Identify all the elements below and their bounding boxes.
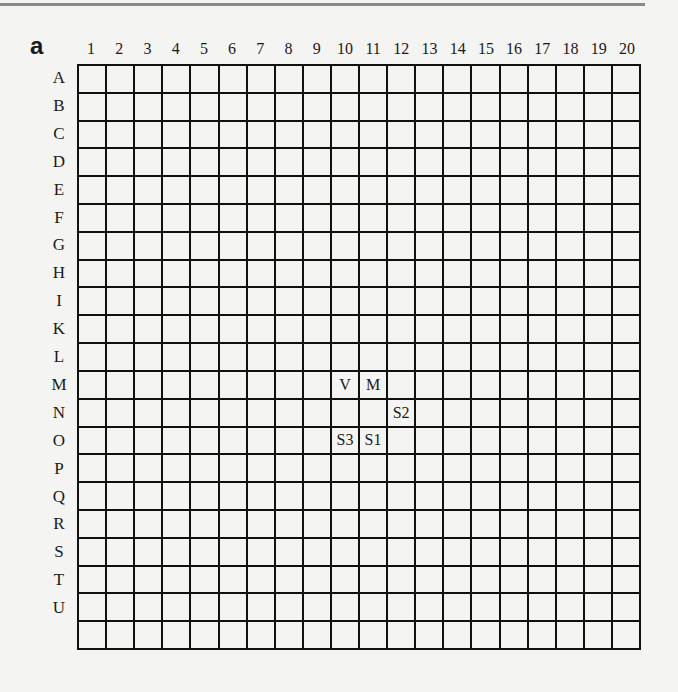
grid-cell	[107, 261, 135, 289]
grid-cell	[416, 122, 444, 150]
grid-cell	[276, 483, 304, 511]
grid-cell	[248, 483, 276, 511]
grid-cell	[388, 567, 416, 595]
grid-cell	[107, 539, 135, 567]
grid-cell	[304, 205, 332, 233]
grid-cell-marked: S3	[332, 428, 360, 456]
grid-cell	[444, 205, 472, 233]
grid-cell	[613, 316, 641, 344]
grid-cell	[135, 122, 163, 150]
grid-cell	[248, 455, 276, 483]
grid-cell	[501, 149, 529, 177]
grid-cell	[388, 428, 416, 456]
grid-cell	[304, 344, 332, 372]
column-label: 11	[359, 38, 387, 60]
grid-cell	[360, 233, 388, 261]
grid-cell	[613, 483, 641, 511]
grid-cell	[163, 594, 191, 622]
grid-cell	[529, 177, 557, 205]
column-label: 13	[415, 38, 443, 60]
grid-cell	[472, 94, 500, 122]
grid-cell	[79, 567, 107, 595]
grid-cell	[163, 288, 191, 316]
grid-cell	[501, 483, 529, 511]
grid-cell	[529, 316, 557, 344]
grid-cell	[585, 428, 613, 456]
grid-cell	[191, 483, 219, 511]
grid-cell	[191, 177, 219, 205]
grid-cell	[276, 539, 304, 567]
grid-cell	[163, 622, 191, 650]
grid-cell	[276, 567, 304, 595]
grid-cell	[248, 511, 276, 539]
row-label: Q	[44, 483, 74, 511]
grid-cell	[107, 372, 135, 400]
grid-cell	[529, 94, 557, 122]
grid-cell	[79, 622, 107, 650]
grid-cell	[360, 288, 388, 316]
grid-cell	[501, 539, 529, 567]
grid-cell	[613, 511, 641, 539]
grid-cell	[276, 288, 304, 316]
grid-cell	[444, 94, 472, 122]
row-label: L	[44, 343, 74, 371]
grid-cell	[107, 316, 135, 344]
grid-cell	[529, 511, 557, 539]
grid-cell	[248, 622, 276, 650]
grid-cell	[472, 149, 500, 177]
grid-cell	[613, 567, 641, 595]
grid-cell	[472, 344, 500, 372]
grid-cell	[79, 66, 107, 94]
grid-cell	[135, 372, 163, 400]
grid-cell	[191, 539, 219, 567]
grid-cell	[220, 261, 248, 289]
top-rule	[0, 3, 645, 6]
grid-cell	[135, 622, 163, 650]
grid-cell	[135, 400, 163, 428]
grid-cell	[107, 288, 135, 316]
grid-cell	[501, 261, 529, 289]
grid-cell	[557, 400, 585, 428]
grid-cell	[220, 483, 248, 511]
grid-cell	[585, 66, 613, 94]
grid-cell	[613, 233, 641, 261]
grid-cell	[304, 122, 332, 150]
grid-cell	[135, 94, 163, 122]
grid-cell	[79, 149, 107, 177]
grid-cell	[585, 205, 613, 233]
grid-cell	[444, 149, 472, 177]
grid-cell	[613, 622, 641, 650]
grid-cell	[472, 622, 500, 650]
column-label: 12	[387, 38, 415, 60]
grid-cell	[557, 316, 585, 344]
grid-cell	[163, 233, 191, 261]
grid-cell	[501, 233, 529, 261]
grid-cell	[163, 483, 191, 511]
row-label: S	[44, 538, 74, 566]
grid-cell	[472, 261, 500, 289]
grid-cell	[135, 511, 163, 539]
grid-cell	[416, 94, 444, 122]
grid-cell	[79, 400, 107, 428]
grid-cell	[416, 149, 444, 177]
grid-cell	[220, 428, 248, 456]
grid-cell	[557, 483, 585, 511]
grid-cell	[163, 567, 191, 595]
grid-cell	[276, 66, 304, 94]
grid-cell	[557, 122, 585, 150]
grid-cell	[135, 344, 163, 372]
column-label: 2	[105, 38, 133, 60]
grid-cell	[444, 622, 472, 650]
grid-cell	[388, 594, 416, 622]
grid-cell	[360, 316, 388, 344]
grid-cell	[220, 233, 248, 261]
grid-cell	[191, 288, 219, 316]
grid-cell	[107, 177, 135, 205]
grid-cell	[191, 455, 219, 483]
grid-cell	[416, 483, 444, 511]
grid-cell	[472, 66, 500, 94]
grid-cell	[79, 233, 107, 261]
panel-label: a	[30, 34, 43, 58]
grid-cell	[163, 539, 191, 567]
grid-cell	[163, 400, 191, 428]
